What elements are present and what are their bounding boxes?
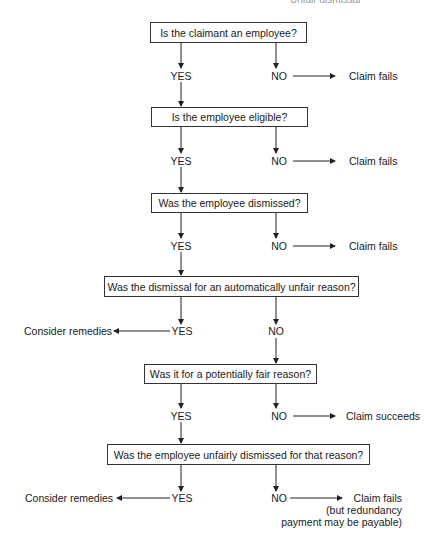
question-box-claimant-employee: Is the claimant an employee? [150,22,307,43]
question-box-potentially-fair: Was it for a potentially fair reason? [144,364,317,384]
question-text: Was the employee dismissed? [158,197,300,209]
outcome-line: Claim fails [280,492,402,504]
yes-label: YES [170,155,191,167]
outcome-consider-remedies: Consider remedies [24,325,112,337]
yes-label: YES [170,240,191,252]
question-box-unfairly-dismissed: Was the employee unfairly dismissed for … [107,444,370,465]
question-box-employee-eligible: Is the employee eligible? [151,107,308,127]
question-text: Is the employee eligible? [172,111,288,123]
no-label: NO [271,70,287,82]
question-text: Is the claimant an employee? [160,27,297,39]
outcome-consider-remedies: Consider remedies [25,492,113,504]
yes-label: YES [171,325,192,337]
outcome-claim-succeeds: Claim succeeds [346,410,420,422]
question-text: Was the dismissal for an automatically u… [107,281,355,293]
question-text: Was the employee unfairly dismissed for … [114,449,363,461]
outcome-line: (but redundancy [280,504,402,516]
no-label: NO [268,325,284,337]
outcome-claim-fails: Claim fails [349,155,397,167]
question-box-employee-dismissed: Was the employee dismissed? [151,193,308,213]
yes-label: YES [171,492,192,504]
question-box-automatically-unfair: Was the dismissal for an automatically u… [104,276,359,297]
yes-label: YES [170,410,191,422]
outcome-line: payment may be payable) [280,516,402,528]
question-text: Was it for a potentially fair reason? [150,368,311,380]
no-label: NO [271,240,287,252]
yes-label: YES [170,70,191,82]
outcome-claim-fails: Claim fails [349,70,397,82]
outcome-claim-fails-redundancy: Claim fails (but redundancy payment may … [280,492,402,528]
no-label: NO [271,155,287,167]
outcome-claim-fails: Claim fails [349,240,397,252]
no-label: NO [271,410,287,422]
